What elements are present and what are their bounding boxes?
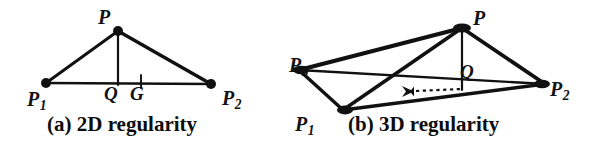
label-vertex-p2-base: P (550, 78, 562, 100)
label-point-q: Q (460, 62, 474, 81)
vertex-dot-p2 (534, 80, 550, 88)
label-vertex-p1-base: P (295, 113, 307, 135)
edge-p3-p2 (299, 70, 545, 84)
label-vertex-p2-base: P (222, 87, 234, 109)
vertex-dot-p (113, 26, 123, 36)
label-point-g: G (130, 84, 144, 103)
label-vertex-p1-subscript: 1 (40, 98, 47, 113)
edge-p3-p (299, 28, 462, 70)
panel-2d-regularity: P P1 P2 Q G (a) 2D regularity (0, 0, 290, 153)
vertex-dot-p2 (206, 79, 216, 89)
edge-p-p2 (118, 31, 211, 84)
vertex-dot-p (453, 23, 471, 32)
label-vertex-p3: P3 (289, 55, 309, 79)
label-vertex-p1-subscript: 1 (308, 123, 315, 138)
edge-p1-p2 (46, 83, 211, 84)
label-vertex-p: P (98, 7, 110, 27)
label-vertex-p: P (473, 8, 485, 28)
caption-panel-a: (a) 2D regularity (47, 114, 197, 135)
bowtie-arrow-marker (402, 86, 414, 97)
edge-p1-p (46, 31, 118, 83)
label-vertex-p1-base: P (27, 88, 39, 110)
label-vertex-p2-subscript: 2 (235, 97, 242, 112)
label-vertex-p2-subscript: 2 (563, 88, 570, 103)
dashed-segment-to-q (416, 89, 461, 91)
panel-3d-regularity: P P1 P2 P3 Q (b) 3D regularity (290, 0, 605, 153)
label-point-q: Q (104, 84, 118, 103)
label-vertex-p3-subscript: 3 (302, 64, 309, 79)
caption-panel-b: (b) 3D regularity (348, 114, 499, 135)
figure-container: P P1 P2 Q G (a) 2D regularity (0, 0, 605, 153)
label-vertex-p1: P1 (295, 114, 315, 138)
label-vertex-p2: P2 (550, 79, 570, 103)
edge-p-p2 (462, 28, 545, 84)
vertex-dot-p1 (41, 78, 51, 88)
label-vertex-p3-base: P (289, 54, 301, 76)
label-vertex-p1: P1 (27, 89, 47, 113)
label-vertex-p2: P2 (222, 88, 242, 112)
